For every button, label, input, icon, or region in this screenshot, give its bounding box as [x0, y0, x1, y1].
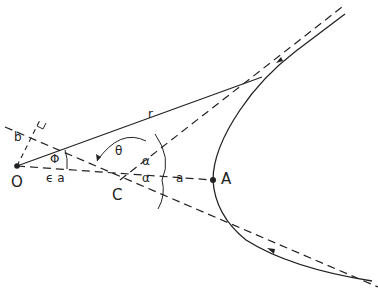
diagram-drawing: [0, 0, 378, 291]
label-C: C: [112, 188, 122, 203]
label-alpha-lower: α: [142, 172, 150, 184]
label-alpha-upper: α: [142, 155, 150, 167]
label-phi: Φ: [50, 153, 59, 165]
lower-asymptote: [5, 127, 378, 287]
label-O: O: [11, 175, 23, 190]
point-A: [210, 177, 216, 183]
upper-asymptote: [120, 7, 342, 180]
hyperbola-diagram: O C A r b Φ ϵ a θ α α a: [0, 0, 378, 291]
label-A: A: [221, 172, 231, 187]
label-a: a: [176, 172, 183, 184]
label-r: r: [148, 108, 153, 120]
label-epsilon-a: ϵ a: [46, 172, 65, 184]
theta-arrow: [96, 154, 101, 161]
label-theta: θ: [115, 145, 122, 157]
hyperbola-curve: [213, 14, 372, 281]
label-b: b: [14, 131, 22, 143]
point-O: [14, 163, 20, 169]
